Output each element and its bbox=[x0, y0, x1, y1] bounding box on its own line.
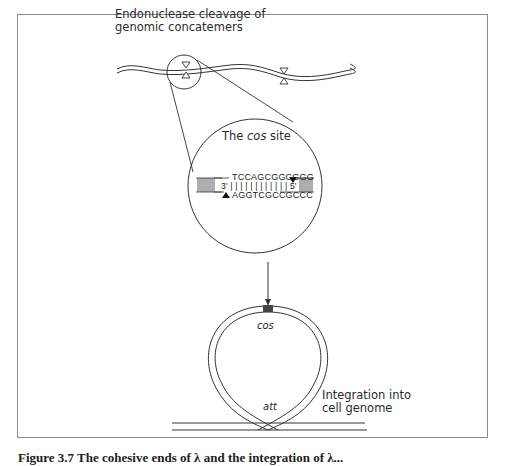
integration-label-line2: cell genome bbox=[322, 402, 411, 415]
genomic-dna-strand bbox=[117, 64, 355, 81]
att-label: att bbox=[263, 400, 277, 413]
cut-triangle-bottom bbox=[222, 192, 230, 198]
zoom-line-left bbox=[170, 82, 193, 172]
zoom-line-right bbox=[197, 60, 293, 122]
cos-block bbox=[263, 305, 273, 312]
cleavage-label-line2: genomic concatemers bbox=[115, 21, 315, 34]
cos-title-suffix: site bbox=[266, 129, 290, 143]
arrow-head bbox=[265, 299, 271, 306]
cleavage-marker-2 bbox=[280, 68, 288, 84]
figure-caption: Figure 3.7 The cohesive ends of λ and th… bbox=[18, 450, 343, 466]
circle-cos-label: cos bbox=[257, 319, 274, 332]
cos-title-italic: cos bbox=[247, 129, 266, 143]
cos-site-title: The cos site bbox=[222, 130, 291, 143]
sequence-bottom-strand: AGGTCGCCGCCC bbox=[232, 190, 313, 200]
cos-title-prefix: The bbox=[222, 129, 247, 143]
cleavage-label: Endonuclease cleavage of genomic concate… bbox=[115, 8, 315, 34]
integration-label: Integration into cell genome bbox=[322, 389, 411, 415]
magnifier-circle-small bbox=[167, 55, 201, 89]
